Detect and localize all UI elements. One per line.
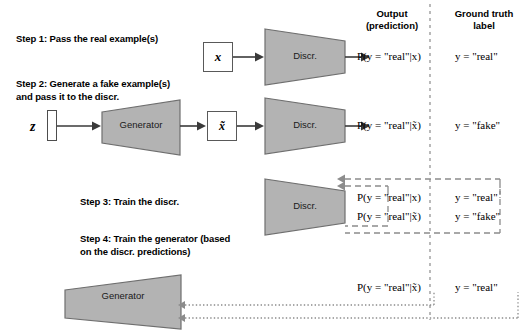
arrow-fake-to-discriminator xyxy=(237,117,265,135)
discriminator-label-step3: Discr. xyxy=(264,200,346,211)
gan-training-diagram: Output (prediction) Ground truth label S… xyxy=(0,0,528,334)
real-sample-box: x xyxy=(203,42,233,72)
discriminator-shape-step3: Discr. xyxy=(264,178,346,236)
column-header-output: Output (prediction) xyxy=(352,8,432,32)
column-header-ground-truth: Ground truth label xyxy=(440,8,528,32)
step-1-label: Step 1: Pass the real example(s) xyxy=(16,33,206,46)
prediction-row1: P(y = "real"|x) xyxy=(357,50,421,62)
noise-vector-box xyxy=(47,110,57,141)
prediction-row2: P(y = "real"|x̃) xyxy=(357,119,421,131)
real-sample-label: x xyxy=(215,49,222,65)
prediction-row4: P(y = "real"|x̃) xyxy=(357,210,421,222)
column-header-ground-truth-line1: Ground truth xyxy=(440,8,528,20)
arrow-noise-to-generator xyxy=(57,117,102,135)
step-4-label: Step 4: Train the generator (based on th… xyxy=(80,233,290,258)
fake-sample-label: x̃ xyxy=(219,119,225,134)
step3-feedback-loops xyxy=(336,168,528,240)
column-header-output-line1: Output xyxy=(352,8,432,20)
prediction-row3: P(y = "real"|x) xyxy=(357,191,421,203)
ground-truth-row2: y = "fake" xyxy=(455,119,500,131)
ground-truth-row3: y = "real" xyxy=(455,191,498,203)
step4-feedback-loops xyxy=(178,292,528,334)
generator-label-step2: Generator xyxy=(101,119,181,130)
column-header-output-line2: (prediction) xyxy=(352,20,432,32)
discriminator-shape-step2: Discr. xyxy=(264,97,346,155)
generator-shape-step4: Generator xyxy=(64,274,182,334)
generator-label-step4: Generator xyxy=(64,290,182,301)
ground-truth-row1: y = "real" xyxy=(455,50,498,62)
fake-sample-box: x̃ xyxy=(207,111,237,141)
arrow-real-to-discriminator xyxy=(233,48,265,66)
discriminator-shape-step1: Discr. xyxy=(264,28,346,86)
generator-shape-step2: Generator xyxy=(101,99,181,156)
discriminator-label-step1: Discr. xyxy=(264,50,346,61)
noise-vector-label: z xyxy=(30,119,35,135)
discriminator-label-step2: Discr. xyxy=(264,119,346,130)
ground-truth-row4: y = "fake" xyxy=(455,210,500,222)
arrow-generator-to-fake-sample xyxy=(180,117,207,135)
column-divider xyxy=(425,4,435,320)
column-header-ground-truth-line2: label xyxy=(440,20,528,32)
step-3-label: Step 3: Train the discr. xyxy=(80,196,270,209)
